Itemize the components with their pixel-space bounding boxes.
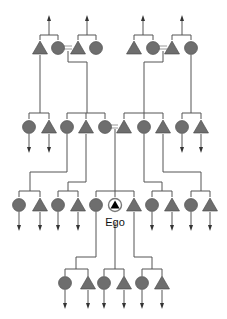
arrow-up-icon [180, 15, 184, 21]
male-triangle-icon [71, 198, 86, 211]
female-circle-icon [90, 199, 103, 212]
male-triangle-icon [194, 120, 209, 133]
arrow-up-icon [85, 15, 89, 21]
female-circle-icon [90, 42, 103, 55]
male-triangle-icon [203, 198, 218, 211]
arrow-down-icon [47, 147, 51, 153]
descent-lines-g2-g1 [29, 51, 201, 119]
ego-label: Ego [105, 216, 125, 228]
female-circle-icon [52, 199, 65, 212]
female-circle-icon [147, 42, 160, 55]
male-triangle-icon [117, 120, 132, 133]
male-triangle-icon [33, 41, 48, 54]
arrow-up-icon [47, 15, 51, 21]
female-circle-icon [185, 199, 198, 212]
female-circle-icon [13, 199, 26, 212]
male-triangle-icon [81, 276, 96, 289]
male-triangle-icon [79, 120, 94, 133]
arrow-up-icon [141, 15, 145, 21]
male-triangle-icon [156, 120, 171, 133]
female-circle-icon [61, 121, 74, 134]
arrow-down-icon [27, 147, 31, 153]
male-triangle-icon [117, 276, 132, 289]
descent-lines-g1-g0 [19, 129, 210, 197]
male-triangle-icon [33, 198, 48, 211]
female-circle-icon [138, 121, 151, 134]
g-1-down-arrows [63, 290, 164, 309]
female-circle-icon [146, 199, 159, 212]
ancestor-arrows [47, 15, 184, 21]
female-circle-icon [176, 121, 189, 134]
male-triangle-icon [42, 120, 57, 133]
female-circle-icon [59, 277, 72, 290]
female-circle-icon [99, 121, 112, 134]
male-triangle-icon [165, 41, 180, 54]
female-circle-icon [185, 42, 198, 55]
male-triangle-icon [71, 41, 86, 54]
male-triangle-icon [155, 276, 170, 289]
male-triangle-icon [127, 41, 142, 54]
arrow-down-icon [199, 147, 203, 153]
female-circle-icon [52, 42, 65, 55]
male-triangle-icon [127, 198, 142, 211]
female-circle-icon [98, 277, 111, 290]
generation-plus2-lines [40, 20, 191, 40]
marriage-signs-g1 [111, 125, 118, 128]
female-circle-icon [136, 277, 149, 290]
male-triangle-icon [165, 198, 180, 211]
female-circle-icon [23, 121, 36, 134]
kinship-diagram: Ego [0, 0, 227, 319]
arrow-down-icon [180, 147, 184, 153]
